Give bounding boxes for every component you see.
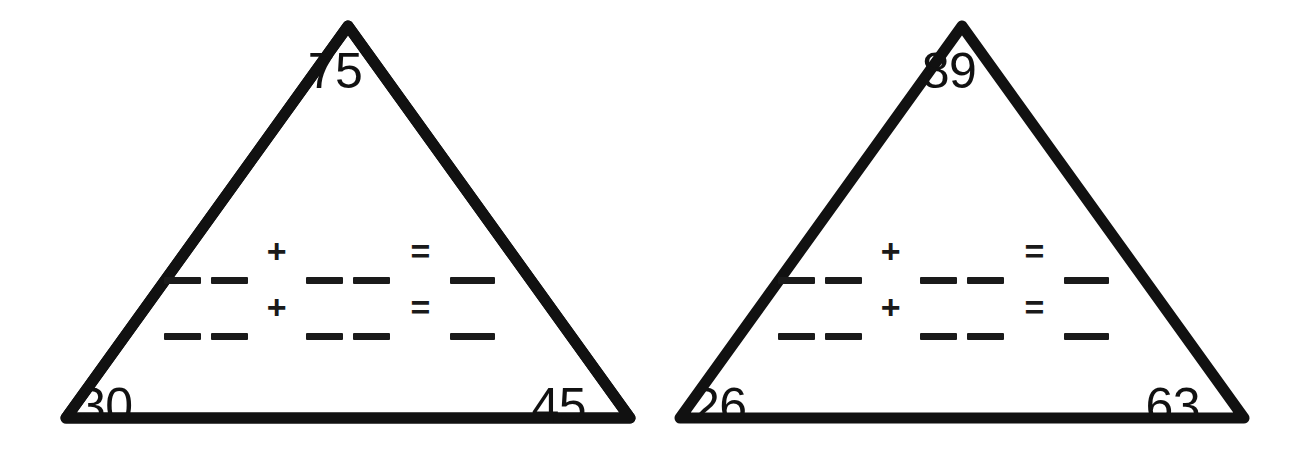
equation-list: + = + = bbox=[614, 228, 1272, 340]
blank-line[interactable] bbox=[353, 277, 390, 284]
equals-icon: = bbox=[1025, 234, 1045, 284]
equals-icon: = bbox=[411, 234, 431, 284]
blank-line[interactable] bbox=[920, 277, 957, 284]
blank-line[interactable] bbox=[211, 277, 248, 284]
blank-line[interactable] bbox=[211, 333, 248, 340]
equals-icon: = bbox=[1025, 290, 1045, 340]
plus-icon: + bbox=[881, 290, 901, 340]
blank-line[interactable] bbox=[164, 333, 201, 340]
blank-line[interactable] bbox=[920, 333, 957, 340]
bottom-right-number: 63 bbox=[1145, 381, 1200, 431]
blank-line[interactable] bbox=[1064, 277, 1109, 284]
addend-two-blanks[interactable] bbox=[915, 277, 1009, 284]
blank-line[interactable] bbox=[825, 277, 862, 284]
blank-line[interactable] bbox=[778, 333, 815, 340]
addend-two-blanks[interactable] bbox=[301, 333, 395, 340]
blank-line[interactable] bbox=[778, 277, 815, 284]
sum-blanks[interactable] bbox=[446, 277, 499, 284]
apex-number: 89 bbox=[658, 46, 1316, 96]
blank-line[interactable] bbox=[450, 277, 495, 284]
blank-line[interactable] bbox=[825, 333, 862, 340]
sum-blanks[interactable] bbox=[1060, 277, 1113, 284]
bottom-left-number: 30 bbox=[78, 381, 133, 431]
equation-row[interactable]: + = bbox=[159, 284, 500, 340]
number-triangle-left: 75 30 45 + = bbox=[0, 0, 658, 472]
blank-line[interactable] bbox=[1064, 333, 1109, 340]
equation-row[interactable]: + = bbox=[773, 284, 1114, 340]
equation-list: + = + = bbox=[0, 228, 658, 340]
blank-line[interactable] bbox=[967, 277, 1004, 284]
apex-number: 75 bbox=[0, 46, 658, 96]
sum-blanks[interactable] bbox=[446, 333, 499, 340]
plus-icon: + bbox=[881, 234, 901, 284]
addend-one-blanks[interactable] bbox=[159, 277, 253, 284]
worksheet-canvas: 75 30 45 + = bbox=[0, 0, 1316, 472]
addend-one-blanks[interactable] bbox=[773, 277, 867, 284]
addend-two-blanks[interactable] bbox=[301, 277, 395, 284]
blank-line[interactable] bbox=[450, 333, 495, 340]
sum-blanks[interactable] bbox=[1060, 333, 1113, 340]
blank-line[interactable] bbox=[306, 333, 343, 340]
blank-line[interactable] bbox=[164, 277, 201, 284]
number-triangle-right: 89 26 63 + = bbox=[658, 0, 1316, 472]
plus-icon: + bbox=[267, 290, 287, 340]
bottom-right-number: 45 bbox=[531, 381, 586, 431]
bottom-left-number: 26 bbox=[692, 381, 747, 431]
addend-one-blanks[interactable] bbox=[159, 333, 253, 340]
equals-icon: = bbox=[411, 290, 431, 340]
equation-row[interactable]: + = bbox=[773, 228, 1114, 284]
addend-two-blanks[interactable] bbox=[915, 333, 1009, 340]
blank-line[interactable] bbox=[306, 277, 343, 284]
addend-one-blanks[interactable] bbox=[773, 333, 867, 340]
equation-row[interactable]: + = bbox=[159, 228, 500, 284]
blank-line[interactable] bbox=[353, 333, 390, 340]
plus-icon: + bbox=[267, 234, 287, 284]
blank-line[interactable] bbox=[967, 333, 1004, 340]
